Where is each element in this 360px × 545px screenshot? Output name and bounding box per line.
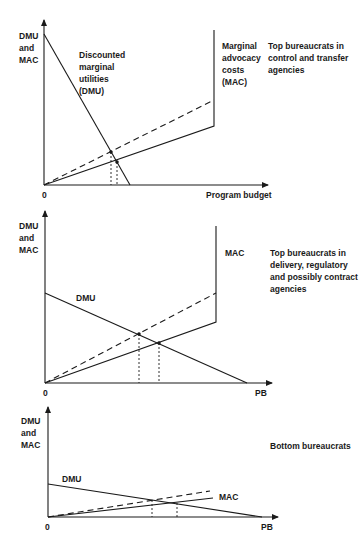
mac-dashed-curve <box>44 100 214 185</box>
intersection-point <box>110 151 112 153</box>
y-axis-label: DMU and MAC <box>19 220 38 256</box>
intersection-point <box>116 161 118 163</box>
panel-caption: Bottom bureaucrats <box>270 440 351 452</box>
dmu-curve <box>45 293 247 383</box>
origin-label: 0 <box>45 521 50 533</box>
panel-caption: Top bureaucrats in control and transfer … <box>268 40 348 76</box>
intersection-point <box>138 333 140 335</box>
mac-label: MAC <box>225 247 244 259</box>
intersection-point <box>158 342 160 344</box>
origin-label: 0 <box>43 387 48 399</box>
x-axis-label: PB <box>255 387 267 399</box>
mac-label: Marginal advocacy costs (MAC) <box>222 40 261 88</box>
x-axis-label: PB <box>261 521 273 533</box>
mac-dashed-curve <box>48 491 210 517</box>
y-axis-label: DMU and MAC <box>19 30 38 66</box>
mac-label: MAC <box>219 491 238 503</box>
panel-bottom-graph <box>48 407 278 517</box>
y-axis-label: DMU and MAC <box>21 415 40 451</box>
dmu-label: DMU <box>76 292 95 304</box>
mac-curve <box>44 30 214 185</box>
mac-dashed-curve <box>45 293 216 383</box>
panel-caption: Top bureaucrats in delivery, regulatory … <box>270 247 358 295</box>
mac-curve <box>48 498 213 517</box>
dmu-label: Discounted marginal utilities (DMU) <box>79 49 125 97</box>
origin-label: 0 <box>42 189 47 201</box>
x-axis-label: Program budget <box>206 189 272 201</box>
dmu-label: DMU <box>62 473 81 485</box>
